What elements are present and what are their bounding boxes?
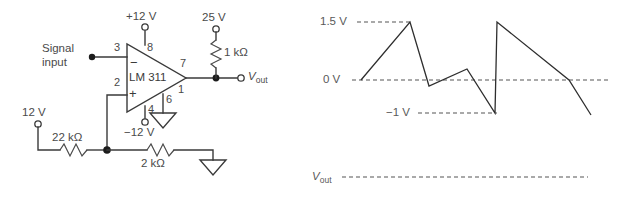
label-noninverting-sign: + — [129, 86, 137, 101]
pin-number-2: 2 — [114, 76, 120, 88]
terminal-25v — [213, 26, 219, 32]
pin-number-1: 1 — [178, 83, 184, 95]
label-vout-circuit-sub: out — [256, 75, 268, 85]
terminal-vout — [238, 75, 244, 81]
terminal-v-plus — [142, 24, 148, 30]
wire-noninverting-to-divider — [107, 95, 127, 150]
label-level-zero: 0 V — [323, 73, 340, 85]
ground-symbol-divider — [200, 160, 226, 175]
pin-number-3: 3 — [114, 41, 120, 53]
pin-number-7: 7 — [180, 57, 186, 69]
label-supply-divider: 12 V — [22, 106, 46, 119]
pin-number-6: 6 — [166, 93, 172, 105]
label-inverting-sign: − — [130, 55, 138, 70]
label-vout-waveform: Vout — [312, 170, 332, 185]
resistor-22k — [60, 144, 87, 156]
label-resistor-divider-bottom: 2 kΩ — [141, 157, 165, 170]
label-resistor-pullup: 1 kΩ — [224, 46, 248, 59]
circuit-svg — [0, 0, 624, 197]
resistor-2k — [147, 144, 174, 156]
figure-root: Signal input +12 V −12 V 25 V 12 V 1 kΩ … — [0, 0, 624, 197]
label-level-high: 1.5 V — [320, 15, 347, 27]
label-vout-waveform-sub: out — [320, 175, 332, 185]
label-vout-circuit: Vout — [248, 70, 268, 87]
label-signal-input-line2: input — [42, 56, 67, 69]
pin-number-8: 8 — [147, 41, 153, 53]
label-vout-circuit-v: V — [248, 70, 256, 82]
waveform-signal-trace — [361, 22, 591, 115]
label-resistor-divider-top: 22 kΩ — [52, 131, 82, 144]
label-supply-negative: −12 V — [124, 126, 154, 139]
label-signal-input-line1: Signal — [42, 42, 74, 55]
label-supply-positive: +12 V — [126, 10, 156, 23]
label-ic-part-number: LM 311 — [129, 71, 167, 83]
resistor-pullup-1k — [211, 40, 221, 68]
signal-input-dot — [89, 54, 95, 60]
terminal-v-minus — [142, 119, 148, 125]
label-vout-waveform-v: V — [312, 170, 320, 182]
wire-2k-to-ground — [174, 150, 213, 160]
label-supply-pullup: 25 V — [202, 11, 226, 24]
label-level-low: −1 V — [386, 106, 410, 118]
terminal-12v — [35, 121, 41, 127]
pin-number-4: 4 — [148, 103, 154, 115]
